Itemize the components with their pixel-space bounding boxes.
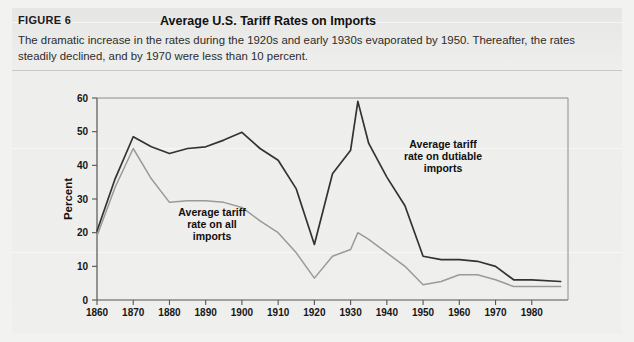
figure-title: Average U.S. Tariff Rates on Imports <box>160 14 376 28</box>
figure-header: FIGURE 6 Average U.S. Tariff Rates on Im… <box>18 14 592 30</box>
header-divider-rule <box>12 70 622 71</box>
scan-artifact-band <box>12 252 622 253</box>
figure-number-label: FIGURE 6 <box>18 14 71 26</box>
scan-artifact-band <box>12 148 622 149</box>
figure-root: FIGURE 6 Average U.S. Tariff Rates on Im… <box>0 0 634 342</box>
figure-title-line: FIGURE 6 Average U.S. Tariff Rates on Im… <box>18 14 592 30</box>
figure-caption: The dramatic increase in the rates durin… <box>18 33 596 64</box>
